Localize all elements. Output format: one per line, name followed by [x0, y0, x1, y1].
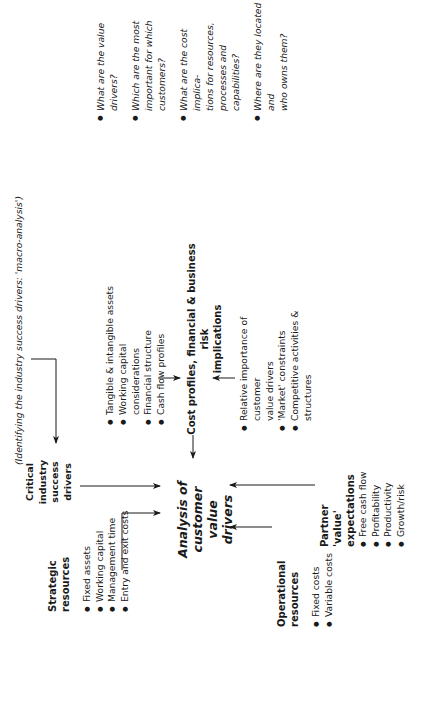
question-line: tions for resources, [203, 0, 216, 111]
partner-title-line-3: expectations [344, 467, 357, 547]
center-line-1: Analysis of [175, 472, 190, 567]
question-item: Which are the most important for which c… [129, 0, 168, 121]
diagram-canvas: (Identifying the industry success driver… [0, 0, 426, 727]
questions-block: What are the value drivers? Which are th… [94, 0, 290, 121]
list-item: Competitive activities & structures [289, 281, 315, 431]
financial-factors-block: Tangible & intangible assets Working cap… [104, 285, 168, 425]
question-line: who owns them? [277, 0, 290, 111]
critical-line-1: Critical [24, 452, 37, 512]
list-item: Management time [106, 502, 119, 612]
question-item: Where are they located and who owns them… [251, 0, 290, 121]
strategic-resources-list: Fixed assets Working capital Management … [81, 502, 131, 612]
question-line: What are the cost implica- [177, 0, 203, 111]
center-line-3: drivers [220, 472, 235, 567]
cost-line-1: Cost profiles, financial & business risk [185, 239, 211, 439]
financial-factors-list: Tangible & intangible assets Working cap… [104, 285, 168, 425]
question-line: What are the value drivers? [94, 0, 120, 111]
list-item: Free cash flow [357, 467, 370, 547]
list-item: Relative importance of customer value dr… [238, 281, 276, 431]
list-item: Growth/risk [395, 467, 408, 547]
list-item: Productivity [382, 467, 395, 547]
center-line-2: customer value [190, 472, 220, 567]
question-item: What are the value drivers? [94, 0, 120, 121]
list-item: 'Market' constraints [276, 281, 289, 431]
list-item: Working capital considerations [117, 285, 143, 425]
question-line: Which are the most [129, 0, 142, 111]
note-to-critical-arrow [31, 359, 56, 443]
question-line: customers? [155, 0, 168, 111]
partner-expectations-list: Free cash flow Profitability Productivit… [357, 467, 407, 547]
list-item: Financial structure [142, 285, 155, 425]
question-line: processes and capabilities? [216, 0, 242, 111]
partner-title-line-2: 'value' [331, 467, 344, 547]
list-item: Working capital [94, 502, 107, 612]
strategic-resources-title: Strategic resources [46, 502, 72, 612]
market-factors-list: Relative importance of customer value dr… [238, 281, 315, 431]
list-item: Entry and exit costs [119, 502, 132, 612]
cost-profiles-title: Cost profiles, financial & business risk… [185, 239, 224, 439]
cost-line-2: implications [211, 239, 224, 439]
list-item-line: Relative importance of customer [238, 281, 264, 421]
list-item: Fixed assets [81, 502, 94, 612]
list-item: Tangible & intangible assets [104, 285, 117, 425]
question-line: Where are they located and [251, 0, 277, 111]
list-item: Cash flow profiles [155, 285, 168, 425]
questions-list: What are the value drivers? Which are th… [94, 0, 290, 121]
operational-resources-title: Operational resources [275, 507, 301, 627]
strategic-resources-block: Strategic resources Fixed assets Working… [46, 502, 131, 612]
macro-analysis-note: (Identifying the industry success driver… [12, 195, 25, 465]
partner-expectations-block: Partner 'value' expectations Free cash f… [318, 467, 407, 547]
list-item: Profitability [370, 467, 383, 547]
partner-title-line-1: Partner [318, 467, 331, 547]
market-factors-block: Relative importance of customer value dr… [238, 281, 315, 431]
question-line: important for which [142, 0, 155, 111]
customer-value-analysis-title: Analysis of customer value drivers [175, 472, 235, 567]
question-item: What are the cost implica- tions for res… [177, 0, 242, 121]
list-item-line: value drivers [264, 281, 277, 421]
